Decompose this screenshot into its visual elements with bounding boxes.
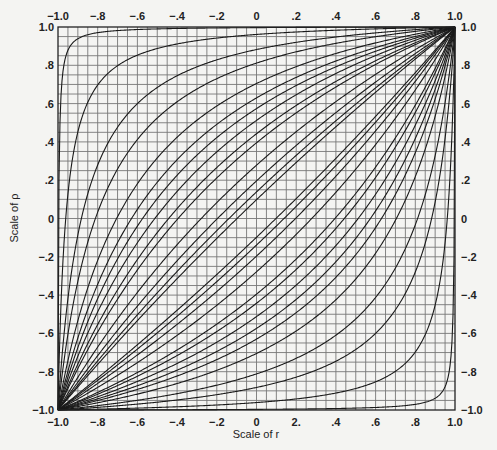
x-tick-top: −.6 bbox=[130, 10, 146, 22]
confidence-belt-chart: −1.0−1.0−.8−.8−.6−.6−.4−.4−.2−.2002..2.4… bbox=[0, 0, 497, 450]
x-tick-top: .8 bbox=[411, 10, 420, 22]
y-tick-left: .4 bbox=[45, 136, 55, 148]
y-tick-left: .2 bbox=[45, 174, 54, 186]
y-axis-title: Scale of ρ bbox=[8, 193, 20, 242]
y-tick-right: .2 bbox=[461, 174, 470, 186]
grid bbox=[58, 27, 455, 410]
y-tick-left: −.2 bbox=[38, 251, 54, 263]
y-tick-left: 0 bbox=[48, 213, 54, 225]
x-tick-top: −.4 bbox=[169, 10, 185, 22]
x-axis-title: Scale of r bbox=[233, 428, 280, 440]
x-tick-bottom: −.8 bbox=[90, 416, 106, 428]
x-tick-bottom: −.4 bbox=[169, 416, 185, 428]
x-tick-bottom: −.2 bbox=[209, 416, 225, 428]
y-tick-left: .6 bbox=[45, 98, 54, 110]
y-tick-right: .6 bbox=[461, 98, 470, 110]
y-tick-right: 1.0 bbox=[461, 21, 476, 33]
x-tick-bottom: −.6 bbox=[130, 416, 146, 428]
x-tick-bottom: .4 bbox=[331, 416, 341, 428]
x-tick-top: .6 bbox=[371, 10, 380, 22]
y-tick-right: 0 bbox=[461, 213, 467, 225]
y-tick-right: .4 bbox=[461, 136, 471, 148]
x-tick-top: −.2 bbox=[209, 10, 225, 22]
y-tick-left: .8 bbox=[45, 59, 54, 71]
x-tick-top: .2 bbox=[292, 10, 301, 22]
y-tick-left: −.8 bbox=[38, 366, 54, 378]
y-tick-left: −1.0 bbox=[32, 404, 54, 416]
x-tick-bottom: 2. bbox=[292, 416, 301, 428]
y-tick-left: −.6 bbox=[38, 327, 54, 339]
x-tick-bottom: −1.0 bbox=[47, 416, 69, 428]
x-tick-bottom: .6 bbox=[371, 416, 380, 428]
y-tick-right: .8 bbox=[461, 59, 470, 71]
y-tick-left: 1.0 bbox=[39, 21, 54, 33]
y-tick-right: −1.0 bbox=[461, 404, 483, 416]
y-tick-right: −.8 bbox=[461, 366, 477, 378]
x-tick-bottom: 1.0 bbox=[447, 416, 462, 428]
y-tick-right: −.6 bbox=[461, 327, 477, 339]
x-tick-bottom: .8 bbox=[411, 416, 420, 428]
x-tick-top: .4 bbox=[331, 10, 341, 22]
x-tick-bottom: 0 bbox=[253, 416, 259, 428]
x-tick-top: −.8 bbox=[90, 10, 106, 22]
y-tick-left: −.4 bbox=[38, 289, 54, 301]
y-tick-right: −.2 bbox=[461, 251, 477, 263]
x-tick-top: 0 bbox=[253, 10, 259, 22]
y-tick-right: −.4 bbox=[461, 289, 477, 301]
